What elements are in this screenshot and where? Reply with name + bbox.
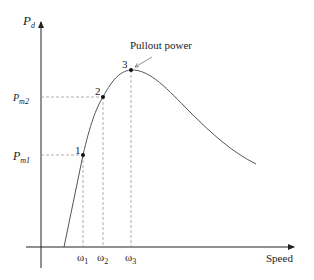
x-tick-omega1: ω1 <box>77 252 88 266</box>
point-3-label: 3 <box>122 59 128 70</box>
guide-lines <box>41 70 131 247</box>
point-2-marker <box>101 95 105 99</box>
x-tick-omega3: ω3 <box>125 252 136 266</box>
x-tick-omega2: ω2 <box>97 252 108 266</box>
point-1-marker <box>81 153 85 157</box>
y-axis-label: Pd <box>23 14 35 30</box>
y-tick-pm1: Pm1 <box>13 150 30 165</box>
power-speed-diagram: Pd Speed Pullout power Pm1 Pm2 ω1 ω2 ω3 … <box>0 0 314 280</box>
x-axis-label: Speed <box>266 253 293 264</box>
point-1-label: 1 <box>75 145 81 156</box>
y-tick-pm2: Pm2 <box>13 93 29 106</box>
point-2-label: 2 <box>95 86 101 97</box>
pullout-power-annotation: Pullout power <box>130 40 192 51</box>
point-3-marker <box>129 68 133 72</box>
power-curve <box>64 70 256 247</box>
annotation-arrow <box>135 57 152 67</box>
